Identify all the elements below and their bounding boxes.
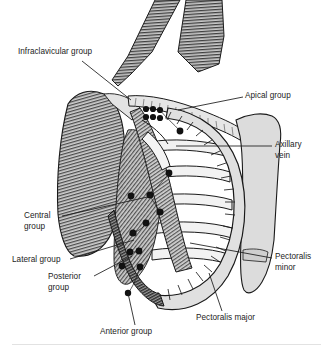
anatomical-figure: Infraclavicular group Apical group Axill… xyxy=(0,0,333,354)
sternocleidomastoid-muscle xyxy=(112,0,224,86)
label-infraclavicular-group: Infraclavicular group xyxy=(18,47,92,58)
label-posterior-group: Posterior group xyxy=(48,272,81,293)
label-axillary-vein: Axillary vein xyxy=(275,140,302,161)
label-central-group: Central group xyxy=(24,211,51,232)
label-anterior-group: Anterior group xyxy=(100,327,152,338)
label-pectoralis-major: Pectoralis major xyxy=(196,313,255,324)
label-lateral-group: Lateral group xyxy=(12,255,61,266)
label-pectoralis-minor: Pectoralis minor xyxy=(275,252,311,273)
footer-divider xyxy=(12,344,321,345)
label-apical-group: Apical group xyxy=(245,91,291,102)
